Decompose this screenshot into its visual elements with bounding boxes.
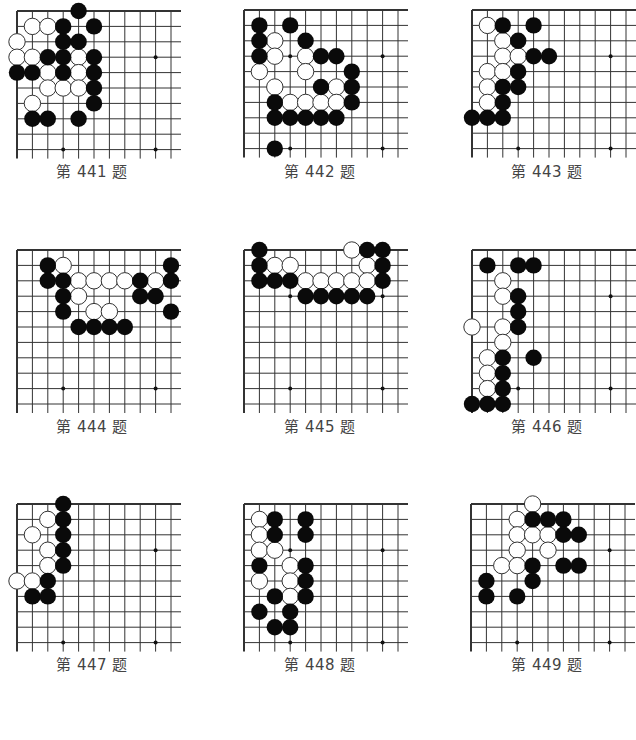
black-stone	[555, 557, 571, 573]
white-stone	[509, 557, 525, 573]
black-stone	[509, 588, 525, 604]
white-stone	[524, 527, 540, 543]
white-stone	[540, 542, 556, 558]
board-grid	[471, 504, 635, 652]
star-point	[515, 641, 519, 645]
black-stone	[478, 573, 494, 589]
problem-caption: 第 449 题	[467, 653, 627, 674]
star-point	[608, 548, 612, 552]
white-stone	[509, 511, 525, 527]
go-board	[0, 0, 636, 740]
black-stone	[524, 511, 540, 527]
black-stone	[555, 511, 571, 527]
black-stone	[524, 557, 540, 573]
white-stone	[524, 496, 540, 512]
star-point	[608, 641, 612, 645]
black-stone	[540, 511, 556, 527]
black-stone	[571, 557, 587, 573]
black-stone	[524, 573, 540, 589]
black-stone	[555, 527, 571, 543]
white-stone	[494, 557, 510, 573]
white-stone	[509, 527, 525, 543]
white-stone	[509, 542, 525, 558]
black-stone	[478, 588, 494, 604]
black-stone	[571, 527, 587, 543]
white-stone	[540, 527, 556, 543]
